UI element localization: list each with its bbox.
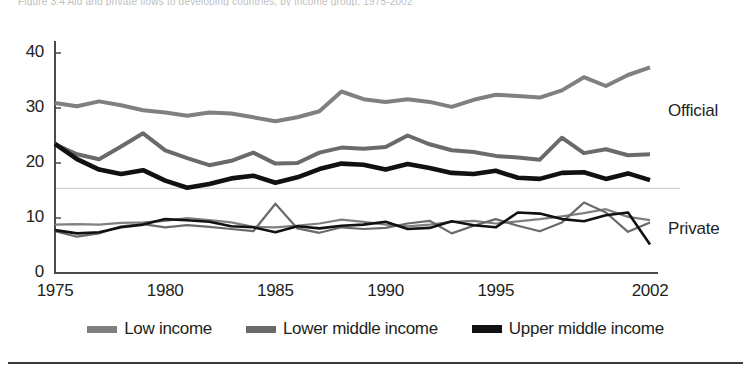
legend-swatch-icon [472, 325, 502, 333]
chart-legend: Low incomeLower middle incomeUpper middl… [0, 316, 751, 342]
chart-axes [55, 41, 658, 273]
x-tick-label: 1990 [356, 281, 416, 301]
legend-swatch-icon [246, 326, 276, 333]
x-tick-label: 2002 [620, 281, 680, 301]
series-line-official-low-income [55, 67, 650, 121]
y-tick-label: 40 [8, 42, 44, 62]
chart-plot-area: 010203040 197519801985199019952002 Offic… [0, 0, 751, 305]
series-line-official-upper-middle-income [55, 144, 650, 188]
legend-swatch-icon [87, 326, 117, 333]
series-line-official-lower-middle-income [55, 133, 650, 165]
legend-label: Upper middle income [509, 319, 664, 339]
legend-label: Lower middle income [283, 319, 438, 339]
legend-item-low-income[interactable]: Low income [87, 319, 212, 339]
chart-svg [0, 0, 751, 305]
figure-container: Figure 3.4 Aid and private flows to deve… [0, 0, 751, 378]
x-tick-label: 1995 [466, 281, 526, 301]
x-tick-label: 1975 [25, 281, 85, 301]
y-tick-label: 0 [8, 262, 44, 282]
legend-item-upper-middle-income[interactable]: Upper middle income [472, 319, 664, 339]
private-label: Private [668, 219, 720, 239]
x-tick-label: 1985 [245, 281, 305, 301]
legend-item-lower-middle-income[interactable]: Lower middle income [246, 319, 438, 339]
y-tick-label: 30 [8, 97, 44, 117]
y-tick-label: 20 [8, 152, 44, 172]
x-tick-label: 1980 [135, 281, 195, 301]
legend-label: Low income [124, 319, 212, 339]
y-tick-label: 10 [8, 207, 44, 227]
bottom-divider-rule [8, 362, 743, 364]
official-label: Official [668, 101, 718, 121]
